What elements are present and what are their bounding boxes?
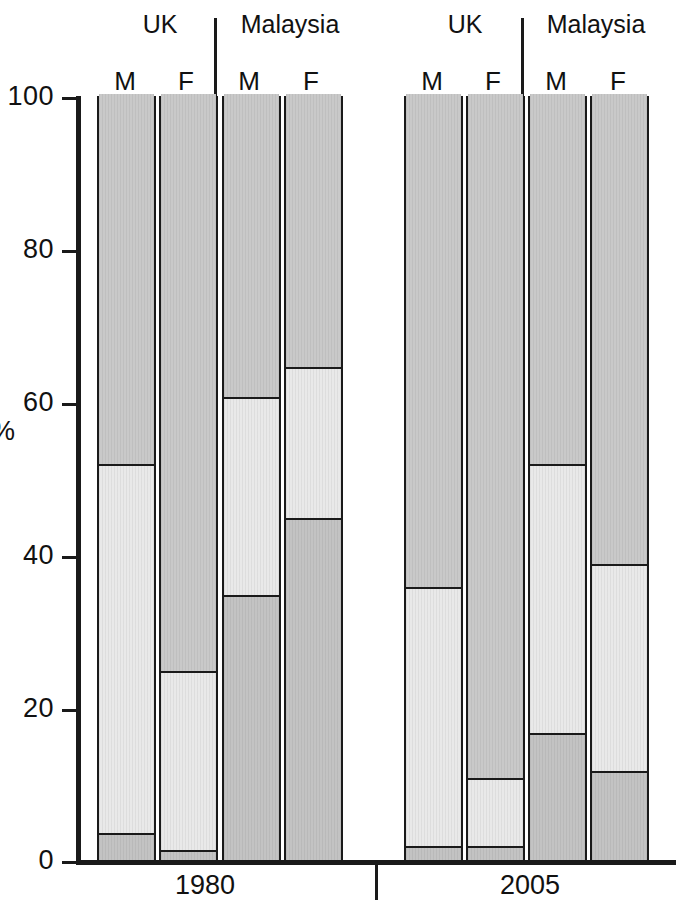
bar-2005-malaysia-m-segment-top (530, 94, 585, 464)
bar-2005-uk-f (466, 96, 525, 862)
y-tick-label-60: 60 (0, 389, 54, 416)
bar-1980-uk-f-segment-middle (161, 671, 216, 850)
period-divider-tick (375, 864, 378, 900)
sex-label-malaysia-f-1980: F (281, 68, 341, 94)
bar-1980-malaysia-m-segment-top (224, 94, 279, 397)
bar-1980-malaysia-m (222, 96, 281, 862)
bar-2005-malaysia-m-segment-middle (530, 464, 585, 733)
stacked-bar-chart: % 100 80 60 40 20 0 UK Malaysia M F M F … (0, 0, 681, 900)
bar-2005-malaysia-f-segment-middle (592, 564, 647, 771)
bar-2005-malaysia-f-segment-top (592, 94, 647, 564)
period-label-1980: 1980 (145, 872, 265, 899)
plot-area (79, 96, 676, 862)
y-axis-title: % (0, 418, 15, 445)
y-tick-label-0: 0 (0, 847, 54, 874)
bar-2005-malaysia-m-segment-bottom (530, 733, 585, 860)
country-label-malaysia-2005: Malaysia (528, 12, 664, 37)
bar-1980-uk-f-segment-bottom (161, 850, 216, 860)
bar-2005-uk-f-segment-top (468, 94, 523, 778)
bar-1980-uk-f (159, 96, 218, 862)
y-tick-label-20: 20 (0, 695, 54, 722)
bar-2005-malaysia-f (590, 96, 649, 862)
bar-2005-uk-f-segment-bottom (468, 846, 523, 860)
bar-1980-malaysia-f-segment-middle (286, 367, 341, 519)
bar-2005-uk-m (404, 96, 463, 862)
y-tick-0 (62, 861, 76, 864)
sex-label-uk-m-1980: M (95, 68, 155, 94)
bar-1980-uk-f-segment-top (161, 94, 216, 671)
sex-label-malaysia-m-2005: M (526, 68, 586, 94)
bar-1980-malaysia-m-segment-middle (224, 397, 279, 595)
bar-1980-malaysia-f-segment-top (286, 94, 341, 367)
sex-label-malaysia-f-2005: F (588, 68, 648, 94)
y-tick-100 (62, 97, 76, 100)
bar-1980-uk-m-segment-bottom (99, 833, 154, 860)
y-tick-20 (62, 709, 76, 712)
bar-1980-malaysia-m-segment-bottom (224, 595, 279, 860)
bar-2005-uk-m-segment-top (406, 94, 461, 587)
y-tick-40 (62, 556, 76, 559)
sex-label-malaysia-m-1980: M (219, 68, 279, 94)
bar-1980-malaysia-f (284, 96, 343, 862)
bar-2005-uk-m-segment-middle (406, 587, 461, 846)
y-tick-label-100: 100 (0, 83, 54, 110)
bar-2005-uk-m-segment-bottom (406, 846, 461, 860)
bar-1980-malaysia-f-segment-bottom (286, 518, 341, 860)
country-label-uk-2005: UK (417, 12, 513, 37)
bar-2005-malaysia-f-segment-bottom (592, 771, 647, 860)
bar-2005-uk-f-segment-middle (468, 778, 523, 846)
y-tick-80 (62, 250, 76, 253)
bar-1980-uk-m (97, 96, 156, 862)
y-tick-60 (62, 403, 76, 406)
sex-label-uk-m-2005: M (402, 68, 462, 94)
sex-label-uk-f-2005: F (463, 68, 523, 94)
bar-2005-malaysia-m (528, 96, 587, 862)
y-tick-label-40: 40 (0, 542, 54, 569)
sex-label-uk-f-1980: F (156, 68, 216, 94)
bar-1980-uk-m-segment-top (99, 94, 154, 464)
y-tick-label-80: 80 (0, 236, 54, 263)
country-label-malaysia-1980: Malaysia (222, 12, 358, 37)
country-label-uk-1980: UK (112, 12, 208, 37)
period-label-2005: 2005 (470, 872, 590, 899)
bar-1980-uk-m-segment-middle (99, 464, 154, 833)
